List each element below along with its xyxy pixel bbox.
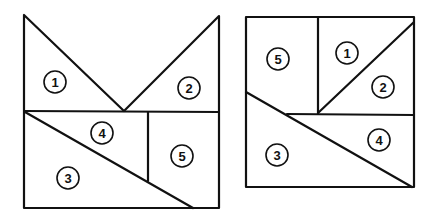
left-figure-piece-5-label: 5 — [171, 145, 193, 167]
piece-number: 1 — [343, 46, 350, 61]
left-horizontal-divider — [24, 111, 219, 112]
left-figure-piece-4-label: 4 — [91, 122, 113, 144]
piece-number: 5 — [178, 149, 185, 164]
piece-number: 5 — [274, 52, 281, 67]
piece-number: 4 — [98, 126, 106, 141]
right-short-diagonal — [318, 22, 414, 113]
right-figure-piece-4-label: 4 — [368, 129, 390, 151]
left-figure-piece-1-label: 1 — [44, 71, 66, 93]
tangram-diagram: 1245351243 — [0, 0, 438, 219]
right-figure-piece-3-label: 3 — [266, 144, 288, 166]
right-figure-piece-2-label: 2 — [372, 76, 394, 98]
left-figure — [24, 15, 219, 208]
left-figure-piece-3-label: 3 — [57, 167, 79, 189]
piece-number: 2 — [185, 81, 192, 96]
right-figure-piece-5-label: 5 — [267, 48, 289, 70]
left-figure-piece-2-label: 2 — [178, 77, 200, 99]
piece-number: 4 — [375, 133, 383, 148]
piece-number: 2 — [379, 80, 386, 95]
right-horizontal-divider — [287, 114, 414, 115]
piece-number: 1 — [51, 75, 58, 90]
piece-number: 3 — [64, 171, 71, 186]
piece-number: 3 — [273, 148, 280, 163]
right-figure-piece-1-label: 1 — [336, 42, 358, 64]
